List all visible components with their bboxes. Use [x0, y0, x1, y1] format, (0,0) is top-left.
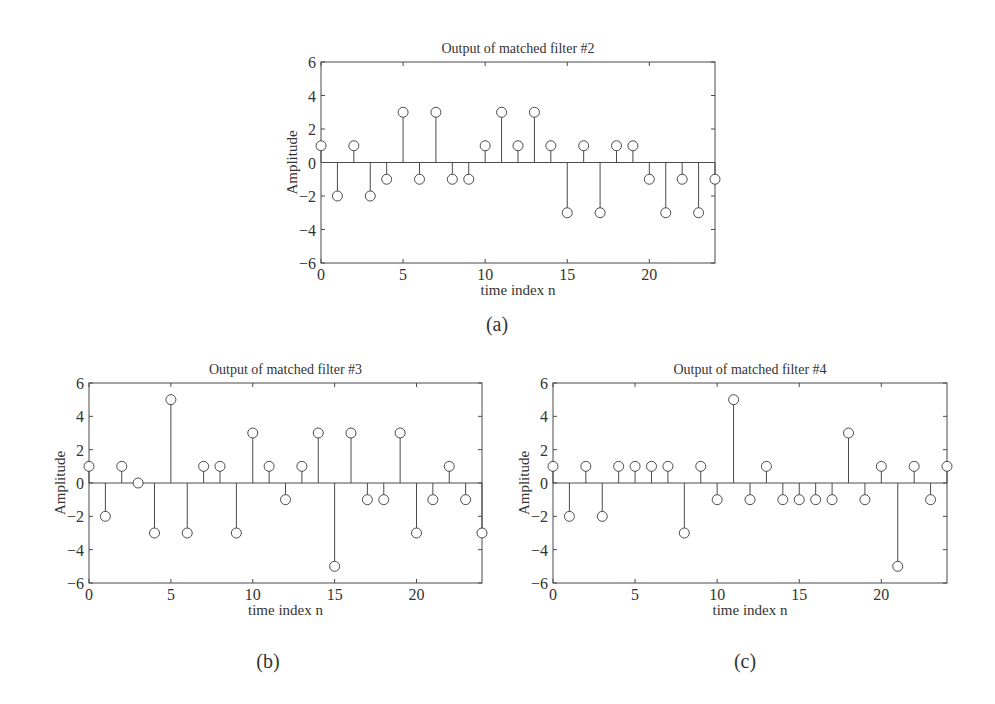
y-tick-label: 0 — [308, 155, 316, 172]
stem-marker — [694, 208, 704, 218]
stem-marker — [564, 511, 574, 521]
y-tick-label: −6 — [299, 255, 316, 272]
panel-label-c: (c) — [734, 650, 756, 673]
stem-marker — [597, 511, 607, 521]
y-tick-label: 4 — [76, 408, 84, 425]
stem-marker — [412, 528, 422, 538]
chart-title: Output of matched filter #3 — [209, 362, 362, 377]
stem-marker — [761, 461, 771, 471]
stem-marker — [346, 428, 356, 438]
stem-marker — [248, 428, 258, 438]
y-tick-label: −4 — [531, 542, 548, 559]
stem-marker — [349, 141, 359, 151]
stem-marker — [395, 428, 405, 438]
x-tick-label: 10 — [477, 266, 493, 283]
x-tick-label: 10 — [709, 586, 725, 603]
chart-matched-filter-2: −6−4−2024605101520Output of matched filt… — [284, 41, 720, 298]
stem-marker — [942, 461, 952, 471]
y-tick-label: −6 — [67, 575, 84, 592]
stem-marker — [628, 141, 638, 151]
stem-marker — [461, 495, 471, 505]
stem-marker — [548, 461, 558, 471]
stem-marker — [100, 511, 110, 521]
x-tick-label: 20 — [873, 586, 889, 603]
x-tick-label: 15 — [327, 586, 343, 603]
stem-marker — [379, 495, 389, 505]
stem-marker — [199, 461, 209, 471]
stem-marker — [117, 461, 127, 471]
stem-marker — [562, 208, 572, 218]
stem-marker — [297, 461, 307, 471]
stem-marker — [581, 461, 591, 471]
stem-marker — [679, 528, 689, 538]
y-tick-label: 6 — [308, 54, 316, 71]
stem-marker — [281, 495, 291, 505]
x-tick-label: 10 — [245, 586, 261, 603]
stem-marker — [661, 208, 671, 218]
stem-marker — [382, 174, 392, 184]
stem-marker — [729, 395, 739, 405]
stem-marker — [398, 107, 408, 117]
stem-marker — [644, 174, 654, 184]
x-tick-label: 20 — [641, 266, 657, 283]
x-tick-label: 5 — [167, 586, 175, 603]
stem-marker — [264, 461, 274, 471]
y-tick-label: −4 — [299, 222, 316, 239]
x-tick-label: 20 — [409, 586, 425, 603]
stem-marker — [579, 141, 589, 151]
y-tick-label: −6 — [531, 575, 548, 592]
stem-marker — [182, 528, 192, 538]
y-tick-label: 2 — [308, 121, 316, 138]
stem-marker — [231, 528, 241, 538]
y-tick-label: −2 — [531, 508, 548, 525]
y-tick-label: 2 — [76, 442, 84, 459]
stem-marker — [893, 561, 903, 571]
panel-label-b: (b) — [256, 650, 279, 673]
stem-marker — [677, 174, 687, 184]
stem-marker — [647, 461, 657, 471]
y-tick-label: 6 — [76, 375, 84, 392]
stem-marker — [428, 495, 438, 505]
y-tick-label: −2 — [67, 508, 84, 525]
stem-marker — [614, 461, 624, 471]
stem-marker — [909, 461, 919, 471]
stem-marker — [477, 528, 487, 538]
y-tick-label: 4 — [308, 88, 316, 105]
chart-title: Output of matched filter #4 — [673, 362, 826, 377]
stem-marker — [513, 141, 523, 151]
y-axis-label: Amplitude — [284, 130, 300, 195]
x-tick-label: 0 — [549, 586, 557, 603]
stem-marker — [447, 174, 457, 184]
y-tick-label: −2 — [299, 188, 316, 205]
stem-marker — [827, 495, 837, 505]
y-tick-label: 0 — [76, 475, 84, 492]
stem-marker — [745, 495, 755, 505]
y-axis-label: Amplitude — [52, 451, 68, 516]
stem-marker — [84, 461, 94, 471]
stem-marker — [546, 141, 556, 151]
stem-marker — [663, 461, 673, 471]
stem-marker — [316, 141, 326, 151]
y-tick-label: 6 — [540, 375, 548, 392]
stem-marker — [876, 461, 886, 471]
stem-marker — [480, 141, 490, 151]
stem-marker — [860, 495, 870, 505]
stem-marker — [926, 495, 936, 505]
x-tick-label: 5 — [399, 266, 407, 283]
stem-marker — [362, 495, 372, 505]
chart-title: Output of matched filter #2 — [441, 41, 594, 56]
stem-marker — [844, 428, 854, 438]
stem-marker — [365, 191, 375, 201]
stem-marker — [215, 461, 225, 471]
stem-marker — [595, 208, 605, 218]
panel-label-a: (a) — [486, 313, 508, 336]
stem-marker — [332, 191, 342, 201]
x-tick-label: 5 — [631, 586, 639, 603]
stem-marker — [529, 107, 539, 117]
chart-matched-filter-4: −6−4−2024605101520Output of matched filt… — [516, 362, 952, 618]
stem-marker — [612, 141, 622, 151]
y-tick-label: 4 — [540, 408, 548, 425]
x-axis-label: time index n — [713, 602, 788, 618]
x-tick-label: 0 — [317, 266, 325, 283]
x-tick-label: 15 — [559, 266, 575, 283]
